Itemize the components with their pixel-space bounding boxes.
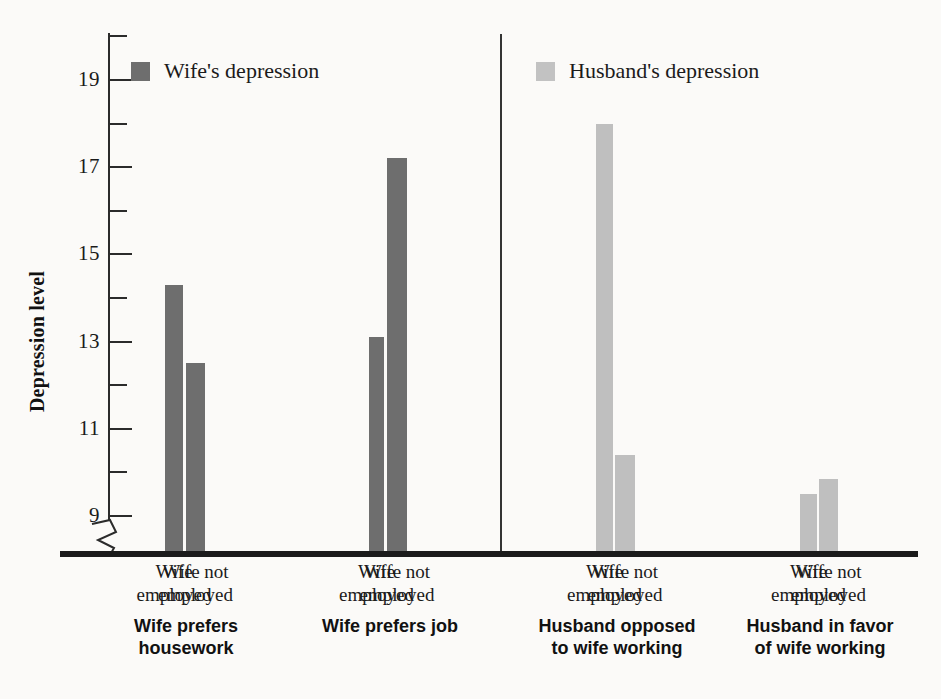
bar: [369, 337, 384, 551]
x-group-label-line2: housework: [66, 637, 306, 659]
x-group-label-line1: Wife prefers job: [270, 615, 510, 637]
x-tick-label-line2: employed: [343, 583, 451, 606]
bar: [186, 363, 205, 551]
bar: [615, 455, 635, 551]
x-tick-label-line1: Wife not: [142, 560, 250, 583]
x-tick-label-line1: Wife not: [571, 560, 679, 583]
x-tick-label: Wife notemployed: [775, 560, 883, 606]
x-tick-label: Wife notemployed: [343, 560, 451, 606]
x-tick-label-line1: Wife not: [343, 560, 451, 583]
x-tick-label: Wife notemployed: [142, 560, 250, 606]
bar: [387, 158, 407, 551]
x-tick-label: Wife notemployed: [571, 560, 679, 606]
x-group-label: Wife prefers job: [270, 615, 510, 637]
x-tick-label-line2: employed: [775, 583, 883, 606]
x-group-label-line2: of wife working: [700, 637, 940, 659]
plot-area: Depression level 91113151719 Wife's depr…: [0, 0, 941, 699]
x-group-label-line1: Husband in favor: [700, 615, 940, 637]
group-divider: [500, 34, 502, 552]
x-tick-label-line2: employed: [571, 583, 679, 606]
x-axis-line: [60, 551, 918, 557]
bar: [819, 479, 838, 551]
legend-swatch-husband-icon: [536, 62, 555, 81]
legend-label-husband: Husband's depression: [569, 60, 759, 82]
bar: [165, 285, 183, 551]
bars-layer: [0, 0, 941, 551]
bar: [596, 124, 613, 551]
x-group-label: Husband in favorof wife working: [700, 615, 940, 659]
legend-label-wife: Wife's depression: [164, 60, 319, 82]
legend-swatch-wife-icon: [131, 62, 150, 81]
chart-page: Depression level 91113151719 Wife's depr…: [0, 0, 941, 699]
x-tick-label-line1: Wife not: [775, 560, 883, 583]
bar: [800, 494, 817, 551]
legend-item-wife[interactable]: Wife's depression: [131, 60, 319, 82]
legend-item-husband[interactable]: Husband's depression: [536, 60, 759, 82]
x-tick-label-line2: employed: [142, 583, 250, 606]
